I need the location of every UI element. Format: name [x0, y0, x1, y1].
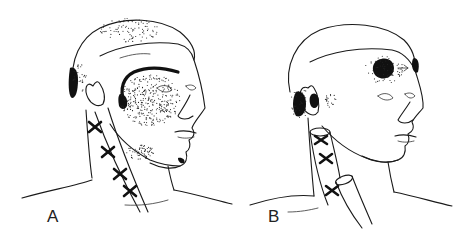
stipple-dot [144, 115, 145, 116]
stipple-dot [152, 104, 153, 105]
stipple-dot [146, 109, 147, 110]
stipple-dot [148, 96, 149, 97]
stipple-dot [156, 119, 157, 120]
stipple-dot [123, 25, 124, 26]
stipple-dot [104, 31, 105, 32]
stipple-dot [143, 146, 144, 147]
stipple-dot [139, 149, 140, 150]
stipple-dot [172, 103, 173, 104]
head-outline-b [288, 25, 423, 163]
stipple-dot [128, 90, 129, 91]
hair-stroke-a [120, 54, 150, 58]
stipple-dot [149, 75, 150, 76]
stipple-dot [138, 24, 139, 25]
stipple-dot [132, 41, 133, 42]
stipple-dot [161, 80, 162, 81]
stipple-dot [141, 106, 142, 107]
stipple-dot [149, 151, 150, 152]
stipple-dot [156, 90, 157, 91]
stipple-dot [132, 105, 133, 106]
trigger-x-a1 [89, 122, 101, 132]
stipple-dot [151, 125, 152, 126]
stipple-dot [162, 91, 163, 92]
stipple-dot [135, 36, 136, 37]
stipple-dot [132, 30, 133, 31]
stipple-dot [167, 87, 168, 88]
stipple-dot [135, 78, 136, 79]
stipple-dot [164, 77, 165, 78]
stipple-dot [146, 26, 147, 27]
stipple-dot [129, 93, 130, 94]
stipple-dot [293, 105, 294, 106]
stipple-dot [177, 90, 178, 91]
stipple-dot [128, 100, 129, 101]
stipple-dot [328, 98, 329, 99]
stipple-dot [119, 34, 120, 35]
stipple-dot [170, 95, 171, 96]
stipple-dot [153, 101, 154, 102]
stipple-dot [120, 22, 121, 23]
stipple-dot [163, 90, 164, 91]
stipple-dot [157, 121, 158, 122]
stipple-dot [164, 85, 165, 86]
stipple-dot [164, 118, 165, 119]
stipple-dot [142, 87, 143, 88]
eye-left-b [378, 94, 393, 101]
stipple-dot [130, 103, 131, 104]
mouth-a [175, 131, 196, 133]
stipple-dot [82, 82, 83, 83]
stipple-dot [330, 95, 331, 96]
stipple-dot [169, 111, 170, 112]
stipple-dot [77, 72, 78, 73]
stipple-dot [135, 100, 136, 101]
stipple-dot [146, 20, 147, 21]
stipple-dot [137, 94, 138, 95]
stipple-dot [138, 152, 139, 153]
stipple-dot [152, 30, 153, 31]
stipple-dot [139, 155, 140, 156]
stipple-dot [334, 95, 335, 96]
stipple-dot [332, 104, 333, 105]
stipple-dot [399, 72, 400, 73]
stipple-dot [179, 96, 180, 97]
stipple-dot [149, 90, 150, 91]
stipple-dot [167, 116, 168, 117]
stipple-dot [168, 117, 169, 118]
stipple-dot [160, 120, 161, 121]
stipple-dot [126, 26, 127, 27]
stipple-dot [138, 155, 139, 156]
stipple-dot [379, 80, 380, 81]
stipple-dot [401, 74, 402, 75]
stipple-dot [143, 113, 144, 114]
neck-front-b [388, 162, 394, 192]
stipple-dot [401, 69, 402, 70]
stipple-dot [151, 84, 152, 85]
trigger-x-a2 [102, 147, 114, 157]
stipple-dot [123, 110, 124, 111]
stipple-dot [144, 95, 145, 96]
sternal-edge-2-b [352, 176, 372, 224]
stipple-dot [147, 23, 148, 24]
stipple-dot [124, 108, 125, 109]
stipple-dot [74, 76, 75, 77]
stipple-dot [140, 109, 141, 110]
stipple-dot [147, 30, 148, 31]
stipple-dot [145, 102, 146, 103]
stipple-dot [134, 83, 135, 84]
stipple-dot [146, 158, 147, 159]
stipple-dot [152, 120, 153, 121]
trigger-x-a3 [114, 169, 126, 179]
stipple-dot [145, 26, 146, 27]
stipple-dot [160, 99, 161, 100]
stipple-dot [380, 60, 381, 61]
stipple-dot [167, 110, 168, 111]
stipple-dot [132, 20, 133, 21]
stipple-dot [302, 92, 303, 93]
stipple-dot [146, 125, 147, 126]
stipple-dot [124, 100, 125, 101]
stipple-dot [170, 103, 171, 104]
stipple-dot [150, 88, 151, 89]
stipple-dot [329, 107, 330, 108]
stipple-dot [383, 64, 384, 65]
stipple-dot [365, 65, 366, 66]
